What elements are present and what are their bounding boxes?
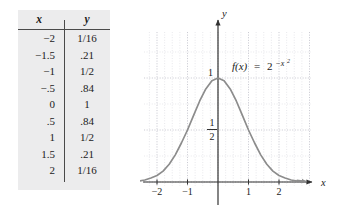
cell-y: 1/16 [64,30,110,47]
function-label-exponent: −x [275,59,284,68]
table-row: 21/16 [18,162,110,179]
cell-y: 1 [64,96,110,113]
cell-x: 2 [18,162,64,179]
table-row: 11/2 [18,129,110,146]
graph-svg: x y −2−112 1 1 2 f(x) = 2 −x 2 [140,0,337,212]
cell-x: 1.5 [18,146,64,163]
table-head: x y [18,10,110,30]
x-tick-label: 2 [277,186,282,197]
cell-x: .5 [18,113,64,130]
function-label-equals: = [254,60,260,72]
fraction-denominator: 2 [210,131,215,142]
function-curve [140,78,303,182]
y-axis-label: y [221,8,227,19]
cell-y: .21 [64,47,110,64]
fraction-numerator: 1 [210,117,215,128]
table-row: −.5.84 [18,80,110,97]
value-table: x y −21/16−1.5.21−11/2−.5.8401.5.8411/21… [18,10,110,179]
x-axis-tick-labels: −2−112 [152,186,282,197]
x-axis-label: x [320,177,326,188]
cell-x: 0 [18,96,64,113]
x-tick-label: 1 [246,186,251,197]
table-row: 01 [18,96,110,113]
cell-y: 1/16 [64,162,110,179]
table-header-row: x y [18,10,110,30]
cell-x: −.5 [18,80,64,97]
header-x: x [18,10,64,30]
cell-y: 1/2 [64,129,110,146]
table-row: −1.5.21 [18,47,110,64]
cell-y: 1/2 [64,63,110,80]
cell-y: .84 [64,113,110,130]
y-tick-label-one-half: 1 2 [207,117,217,142]
table-body: −21/16−1.5.21−11/2−.5.8401.5.8411/21.5.2… [18,30,110,179]
cell-y: .84 [64,80,110,97]
cell-x: −2 [18,30,64,47]
cell-x: −1 [18,63,64,80]
header-y: y [64,10,110,30]
cell-x: −1.5 [18,47,64,64]
cell-y: .21 [64,146,110,163]
x-tick-label: −2 [152,186,163,197]
function-label-base: 2 [267,60,273,72]
table-row: −11/2 [18,63,110,80]
value-table-panel: x y −21/16−1.5.21−11/2−.5.8401.5.8411/21… [18,10,110,190]
table-row: .5.84 [18,113,110,130]
table-row: −21/16 [18,30,110,47]
function-label-lhs: f(x) [232,60,248,73]
figure-root: x y −21/16−1.5.21−11/2−.5.8401.5.8411/21… [0,0,337,212]
table-row: 1.5.21 [18,146,110,163]
cell-x: 1 [18,129,64,146]
x-tick-label: −1 [182,186,193,197]
graph-panel: x y −2−112 1 1 2 f(x) = 2 −x 2 [140,0,337,212]
function-label-exponent-power: 2 [287,58,290,64]
y-tick-label-1: 1 [208,67,213,78]
